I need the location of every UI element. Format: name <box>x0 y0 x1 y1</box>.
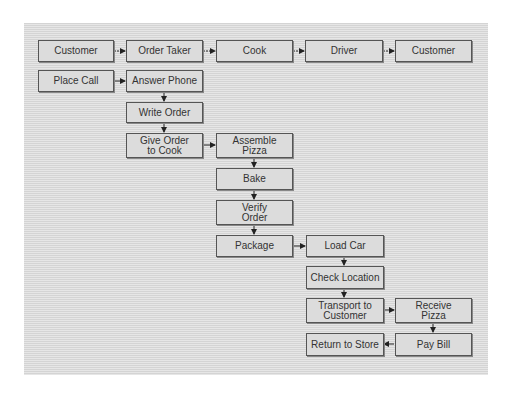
step-pay-bill: Pay Bill <box>395 333 472 356</box>
step-verify-order: Verify Order <box>216 200 293 225</box>
step-check-location: Check Location <box>306 266 384 289</box>
lane-header-order-taker: Order Taker <box>126 40 203 62</box>
step-package: Package <box>216 235 293 257</box>
step-place-call: Place Call <box>38 70 114 92</box>
lane-header-customer: Customer <box>38 40 114 62</box>
lane-header-customer-end: Customer <box>395 40 472 62</box>
step-return-to-store: Return to Store <box>306 333 384 356</box>
step-load-car: Load Car <box>306 235 384 257</box>
step-transport-to-customer: Transport to Customer <box>306 298 384 323</box>
lane-header-driver: Driver <box>305 40 383 62</box>
step-assemble-pizza: Assemble Pizza <box>216 133 293 158</box>
step-answer-phone: Answer Phone <box>126 70 203 92</box>
step-receive-pizza: Receive Pizza <box>395 298 472 323</box>
step-write-order: Write Order <box>126 102 203 123</box>
step-bake: Bake <box>216 168 293 190</box>
step-give-order-to-cook: Give Order to Cook <box>126 133 203 158</box>
lane-header-cook: Cook <box>216 40 293 62</box>
